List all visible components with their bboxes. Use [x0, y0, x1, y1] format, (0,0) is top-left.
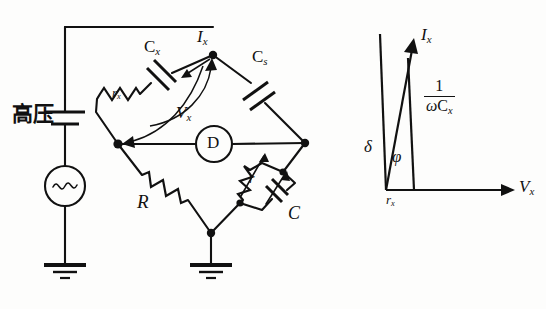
ix-circuit-label: Ix [197, 28, 208, 47]
rx-label: rx [112, 86, 121, 102]
variable-r-label: r [249, 172, 254, 186]
phasor-ix-label: Ix [421, 26, 432, 45]
arm-cs [213, 55, 305, 143]
detector-label: D [207, 134, 219, 151]
r-label: R [137, 192, 149, 211]
cs-label: Cs [252, 48, 268, 67]
phasor-phi-label: φ [392, 148, 401, 165]
phasor-rx-label: rx [386, 193, 395, 209]
circuit-svg [0, 0, 546, 309]
ground-symbol-source [44, 265, 86, 278]
arm-r [118, 144, 211, 233]
schering-bridge-figure: 高压 Cx rx Cs Ix Vx D R r C Ix Vx [0, 0, 546, 309]
variable-c-label: C [288, 204, 300, 222]
phasor-reactance-label: 1 ωCx [424, 78, 455, 116]
top-supply-wire [65, 27, 213, 100]
ground-symbol-bridge [190, 233, 232, 278]
vx-circuit-label: Vx [176, 104, 191, 123]
phasor-delta-label: δ [364, 138, 372, 155]
ac-source-symbol [45, 166, 85, 264]
phasor-vx-label: Vx [519, 178, 534, 197]
cx-label: Cx [144, 38, 160, 57]
reactance-numerator: 1 [424, 78, 455, 97]
hv-source-label: 高压 [12, 104, 54, 125]
reactance-denominator: ωCx [424, 97, 455, 117]
